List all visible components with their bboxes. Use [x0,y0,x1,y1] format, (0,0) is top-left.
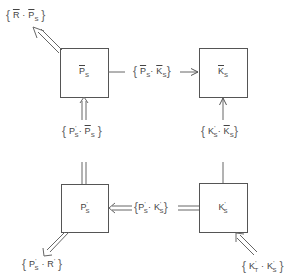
edge-label-kprime-kbar: { K'S· KS} [201,124,238,138]
edge-pprime-to-pbar-double-arrow [80,97,88,184]
edge-pbar-to-r-double-arrow [33,27,62,53]
node-label-kprime-s: K'S [199,201,247,214]
edge-label-pprime-r-prime: { P'S · R' } [22,257,62,271]
edge-pprime-to-r-prime-double-arrow [43,232,69,256]
node-label-pprime-s: P'S [61,201,109,214]
diagram-canvas [0,0,291,279]
edge-label-pprime-pbar: { P'S· PS } [62,124,102,138]
edge-label-pprime-kprime: {P'S· K'S} [134,200,168,214]
node-label-pbar-s: PS [60,66,108,78]
edge-kt-to-kprime-double-arrow [236,233,257,255]
edge-label-kt-kprime: { K'T · K'S } [242,259,284,273]
edge-label-r-pbar: { R · PS } [6,8,46,22]
node-label-kbar-s: KS [199,66,247,78]
edge-label-pbar-kbar: { PS· KS} [133,64,171,78]
